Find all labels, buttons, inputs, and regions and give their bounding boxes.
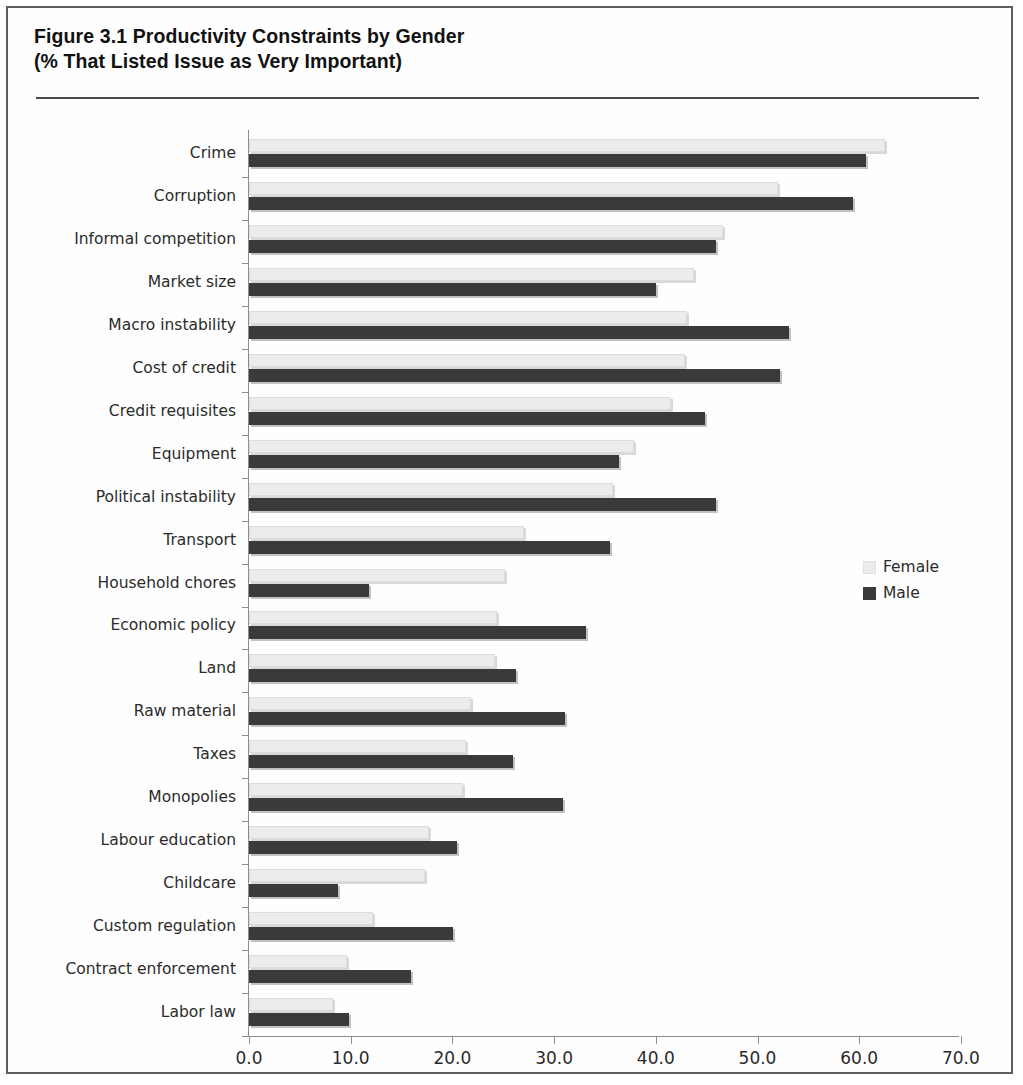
category-label: Raw material <box>6 703 236 719</box>
x-axis-tick-label: 20.0 <box>417 1048 487 1068</box>
x-axis-tick <box>249 1036 250 1044</box>
x-axis-tick-label: 0.0 <box>214 1048 284 1068</box>
category-label: Transport <box>6 532 236 548</box>
bar-male <box>249 841 457 854</box>
bar-row: Cost of credit <box>8 350 1013 393</box>
bar-female <box>249 697 471 710</box>
bar-row: Raw material <box>8 693 1013 736</box>
category-label: Informal competition <box>6 231 236 247</box>
category-label: Political instability <box>6 489 236 505</box>
bar-female <box>249 912 373 925</box>
x-axis-tick-label: 60.0 <box>824 1048 894 1068</box>
bar-row: Taxes <box>8 736 1013 779</box>
bar-female <box>249 955 347 968</box>
legend-label-female: Female <box>883 558 939 576</box>
x-axis-tick <box>859 1036 860 1044</box>
bar-female <box>249 182 778 195</box>
legend-label-male: Male <box>883 584 920 602</box>
bar-male <box>249 154 866 167</box>
bar-female <box>249 611 497 624</box>
category-label: Custom regulation <box>6 918 236 934</box>
bar-female <box>249 654 495 667</box>
category-label: Market size <box>6 274 236 290</box>
bar-female <box>249 869 425 882</box>
x-axis-tick-label: 40.0 <box>621 1048 691 1068</box>
bar-female <box>249 440 634 453</box>
bar-row: Informal competition <box>8 221 1013 264</box>
bar-male <box>249 798 563 811</box>
x-axis-tick <box>656 1036 657 1044</box>
x-axis-tick <box>452 1036 453 1044</box>
bar-female <box>249 354 685 367</box>
bar-male <box>249 970 411 983</box>
bar-male <box>249 712 565 725</box>
bar-male <box>249 927 453 940</box>
bar-female <box>249 225 723 238</box>
x-axis-tick <box>351 1036 352 1044</box>
chart-plot-area: CrimeCorruptionInformal competitionMarke… <box>8 8 1013 1072</box>
category-label: Taxes <box>6 746 236 762</box>
bar-female <box>249 268 694 281</box>
legend-item-female: Female <box>863 554 939 580</box>
bar-male <box>249 541 610 554</box>
bar-female <box>249 483 613 496</box>
category-label: Corruption <box>6 188 236 204</box>
bar-female <box>249 998 333 1011</box>
category-label: Credit requisites <box>6 403 236 419</box>
x-axis-tick <box>758 1036 759 1044</box>
category-label: Land <box>6 660 236 676</box>
bar-male <box>249 584 369 597</box>
bar-male <box>249 369 780 382</box>
bar-female <box>249 826 429 839</box>
category-label: Monopolies <box>6 789 236 805</box>
y-axis-tick <box>242 1036 249 1037</box>
category-label: Childcare <box>6 875 236 891</box>
bar-row: Macro instability <box>8 307 1013 350</box>
figure-frame: Figure 3.1 Productivity Constraints by G… <box>6 6 1013 1074</box>
x-axis-tick-label: 30.0 <box>519 1048 589 1068</box>
x-axis-tick-label: 50.0 <box>723 1048 793 1068</box>
bar-row: Labour education <box>8 822 1013 865</box>
bar-row: Monopolies <box>8 779 1013 822</box>
bar-male <box>249 197 853 210</box>
bar-row: Labor law <box>8 994 1013 1037</box>
bar-row: Political instability <box>8 479 1013 522</box>
x-axis-tick <box>961 1036 962 1044</box>
category-label: Cost of credit <box>6 360 236 376</box>
bar-row: Custom regulation <box>8 908 1013 951</box>
category-label: Crime <box>6 145 236 161</box>
bar-female <box>249 740 466 753</box>
category-label: Economic policy <box>6 617 236 633</box>
bar-male <box>249 626 586 639</box>
category-label: Labor law <box>6 1004 236 1020</box>
bar-male <box>249 283 656 296</box>
bar-male <box>249 412 705 425</box>
bar-male <box>249 1013 349 1026</box>
bar-row: Economic policy <box>8 607 1013 650</box>
bar-row: Market size <box>8 264 1013 307</box>
bar-male <box>249 326 789 339</box>
x-axis-tick-label: 10.0 <box>316 1048 386 1068</box>
bar-male <box>249 455 619 468</box>
bar-row: Credit requisites <box>8 393 1013 436</box>
category-label: Contract enforcement <box>6 961 236 977</box>
bar-row: Childcare <box>8 865 1013 908</box>
legend-swatch-female-icon <box>863 561 876 574</box>
chart-legend: Female Male <box>863 554 939 606</box>
bar-row: Crime <box>8 135 1013 178</box>
bar-female <box>249 311 687 324</box>
category-label: Macro instability <box>6 317 236 333</box>
bar-row: Equipment <box>8 436 1013 479</box>
x-axis-tick-label: 70.0 <box>926 1048 996 1068</box>
legend-swatch-male-icon <box>863 587 876 600</box>
bar-row: Corruption <box>8 178 1013 221</box>
bar-male <box>249 669 516 682</box>
bar-female <box>249 397 671 410</box>
x-axis-tick <box>554 1036 555 1044</box>
bar-male <box>249 755 513 768</box>
category-label: Household chores <box>6 575 236 591</box>
bar-female <box>249 783 463 796</box>
bar-row: Land <box>8 650 1013 693</box>
category-label: Equipment <box>6 446 236 462</box>
bar-male <box>249 498 716 511</box>
